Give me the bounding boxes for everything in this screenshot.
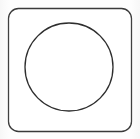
figure-canvas: Circle inscribed in a rounded square <box>0 0 140 139</box>
geometric-figure-svg: Circle inscribed in a rounded square <box>0 0 140 139</box>
